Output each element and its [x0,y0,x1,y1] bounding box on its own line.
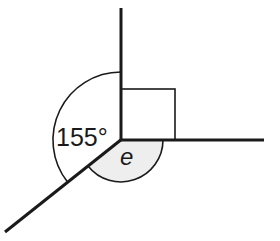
diagram-canvas: 155° e [0,0,280,241]
angle-diagram: 155° e [0,0,280,241]
angle-e-label: e [120,143,133,170]
angle-155-label: 155° [56,123,108,151]
right-angle-marker [121,89,175,140]
diagonal-ray [5,139,122,232]
